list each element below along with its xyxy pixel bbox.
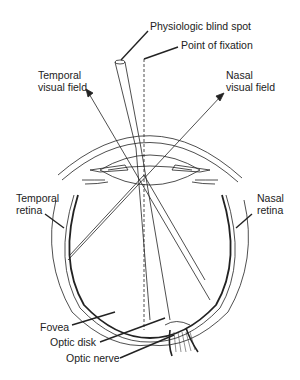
- label-temporal-field-2: visual field: [38, 81, 87, 93]
- eye-diagram: Physiologic blind spot Point of fixation…: [0, 0, 300, 380]
- label-nasal-field-1: Nasal: [226, 69, 253, 81]
- label-nasal-field-2: visual field: [226, 81, 275, 93]
- temporal-field-ray: [88, 92, 210, 300]
- label-nasal-retina-2: retina: [257, 204, 283, 216]
- label-fixation: Point of fixation: [181, 39, 253, 51]
- label-nasal-retina-1: Nasal: [257, 192, 284, 204]
- label-temporal-field-1: Temporal: [38, 69, 81, 81]
- label-temporal-retina-1: Temporal: [16, 192, 59, 204]
- label-fovea: Fovea: [40, 321, 69, 333]
- blind-spot-tube: [115, 60, 170, 320]
- label-temporal-retina-2: retina: [16, 204, 42, 216]
- nasal-field-ray: [68, 96, 221, 260]
- label-blind-spot: Physiologic blind spot: [150, 20, 251, 32]
- label-optic-nerve: Optic nerve: [66, 352, 120, 364]
- optic-nerve-drawing: [165, 322, 198, 357]
- label-optic-disk: Optic disk: [50, 336, 96, 348]
